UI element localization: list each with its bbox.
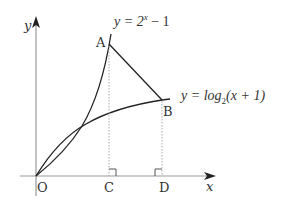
point-d-label: D (159, 180, 169, 195)
log-curve-equation: y = log2(x + 1) (179, 88, 265, 106)
log-curve (36, 99, 170, 176)
function-graph-diagram: y x O A B C D y = 2x − 1 y = log2(x + 1) (0, 0, 284, 208)
x-axis-label: x (206, 179, 214, 194)
point-a-label: A (95, 35, 106, 50)
right-angle-mark-c (109, 169, 116, 176)
exp-curve (36, 34, 111, 176)
point-c-label: C (104, 180, 114, 195)
point-b-label: B (163, 104, 173, 119)
exp-curve-equation: y = 2x − 1 (112, 12, 170, 29)
right-angle-mark-d (155, 169, 162, 176)
segment-ab (109, 44, 162, 100)
y-axis-label: y (23, 18, 32, 33)
origin-label: O (37, 180, 48, 195)
